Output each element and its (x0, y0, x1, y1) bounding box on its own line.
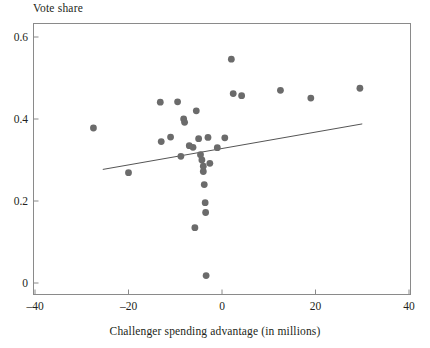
data-point (177, 153, 184, 160)
data-point (357, 85, 364, 92)
x-tick-label: 40 (403, 300, 415, 312)
y-tick-label: 0 (0, 277, 28, 289)
x-tick-label: –40 (26, 300, 43, 312)
data-point (181, 119, 188, 126)
axis-frame (33, 23, 411, 295)
data-point (202, 199, 209, 206)
tick-marks (34, 37, 410, 295)
data-point (202, 209, 209, 216)
data-point (206, 160, 213, 167)
y-tick-label: 0.4 (0, 113, 28, 125)
data-point (174, 98, 181, 105)
scatter-plot-figure: Vote share 00.20.40.6 –40–2002040 Challe… (0, 0, 430, 348)
data-point (205, 134, 212, 141)
data-point (190, 144, 197, 151)
data-point (125, 169, 132, 176)
regression-line (103, 124, 362, 170)
data-points (90, 56, 363, 279)
x-tick-label: 0 (219, 300, 225, 312)
data-point (203, 272, 210, 279)
data-point (90, 125, 97, 132)
x-tick-label: 20 (310, 300, 322, 312)
data-point (167, 134, 174, 141)
data-point (221, 134, 228, 141)
x-tick-label: –20 (120, 300, 137, 312)
plot-canvas (0, 0, 430, 348)
regression-line-segment (103, 124, 362, 170)
data-point (201, 181, 208, 188)
x-axis-label: Challenger spending advantage (in millio… (0, 325, 430, 337)
data-point (157, 99, 164, 106)
y-tick-label: 0.2 (0, 195, 28, 207)
data-point (307, 95, 314, 102)
data-point (238, 92, 245, 99)
data-point (230, 90, 237, 97)
data-point (191, 224, 198, 231)
data-point (214, 144, 221, 151)
y-tick-label: 0.6 (0, 31, 28, 43)
data-point (195, 135, 202, 142)
data-point (228, 56, 235, 63)
data-point (158, 138, 165, 145)
data-point (277, 87, 284, 94)
data-point (193, 107, 200, 114)
data-point (200, 168, 207, 175)
data-point (198, 157, 205, 164)
